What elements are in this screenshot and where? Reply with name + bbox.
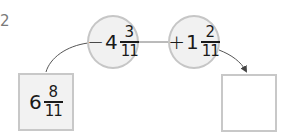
mixed-number: 6 8 11	[29, 85, 63, 119]
fraction: 8 11	[44, 85, 63, 119]
answer-box[interactable]	[221, 74, 277, 132]
denominator: 11	[201, 43, 220, 59]
whole-part: 6	[29, 92, 42, 112]
operation-circle-add: + 1 2 11	[168, 15, 220, 69]
whole-part: 4	[105, 32, 118, 52]
curve-start-to-op1	[46, 43, 88, 72]
fraction: 2 11	[201, 25, 220, 59]
denominator: 11	[44, 103, 63, 119]
mixed-number: + 1 2 11	[168, 25, 220, 59]
numerator: 2	[204, 25, 216, 41]
operation-circle-subtract: − 4 3 11	[87, 15, 139, 69]
minus-sign: −	[87, 32, 104, 52]
mixed-number: − 4 3 11	[87, 25, 139, 59]
plus-sign: +	[168, 32, 185, 52]
curve-op2-to-answer	[219, 50, 246, 71]
start-value-box: 6 8 11	[18, 73, 74, 131]
denominator: 11	[120, 43, 139, 59]
numerator: 8	[48, 85, 60, 101]
whole-part: 1	[186, 32, 199, 52]
fraction: 3 11	[120, 25, 139, 59]
numerator: 3	[123, 25, 135, 41]
